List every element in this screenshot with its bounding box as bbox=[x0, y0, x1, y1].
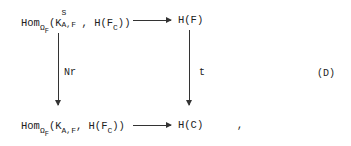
equation-tag: (D) bbox=[317, 68, 335, 79]
hom-text: Hom bbox=[21, 120, 40, 132]
hf-text: , H(F bbox=[76, 120, 108, 132]
k-open: (K bbox=[49, 120, 62, 132]
k-sub: A,F bbox=[62, 126, 76, 135]
right-vertical-arrow bbox=[189, 30, 190, 105]
k-sub: A,F bbox=[62, 21, 76, 29]
close-paren: )) bbox=[112, 120, 125, 132]
top-right-node: H(F) bbox=[178, 15, 203, 26]
left-vertical-arrow bbox=[58, 33, 59, 105]
bottom-right-node: H(C) bbox=[178, 120, 203, 131]
hom-text: Hom bbox=[21, 17, 40, 29]
bottom-left-node: HomΩF(KA,F, H(FC)) bbox=[21, 121, 125, 138]
left-arrow-label: Nr bbox=[64, 67, 76, 78]
k-open: (K bbox=[49, 17, 62, 29]
top-arrow bbox=[133, 20, 171, 21]
close-paren: )) bbox=[118, 17, 131, 29]
right-arrow-label: t bbox=[199, 67, 205, 78]
trailing-comma: , bbox=[237, 120, 243, 131]
k-sup: S bbox=[62, 9, 67, 17]
bottom-arrow bbox=[133, 125, 171, 126]
hf-text: , H(F bbox=[82, 17, 114, 29]
top-left-node: HomΩF(KSA,F, H(FC)) bbox=[21, 16, 130, 35]
